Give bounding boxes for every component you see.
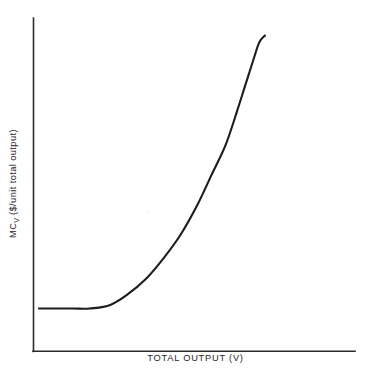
y-axis-label-suffix: ($/unit total output) <box>8 129 18 218</box>
marginal-cost-curve <box>39 36 265 309</box>
y-axis-label-prefix: MC <box>8 223 18 238</box>
paper-speck <box>146 211 148 213</box>
y-axis-label: MCV ($/unit total output) <box>0 0 30 376</box>
y-axis-label-subscript: V <box>12 218 21 223</box>
x-axis-label: TOTAL OUTPUT (V) <box>0 354 369 363</box>
chart-plot-area <box>0 0 369 376</box>
chart-figure: MCV ($/unit total output) TOTAL OUTPUT (… <box>0 0 369 376</box>
